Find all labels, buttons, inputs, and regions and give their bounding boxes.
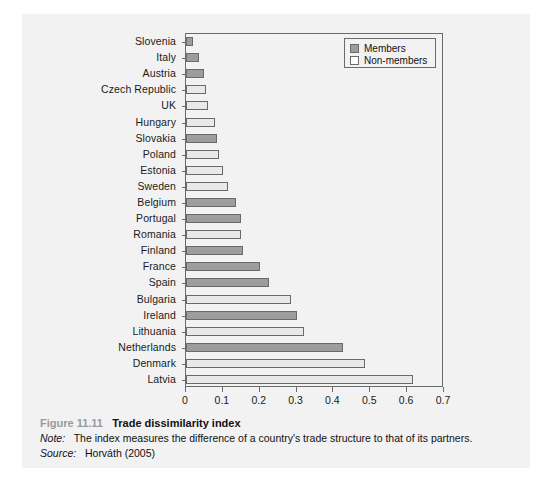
category-label-romania: Romania — [133, 228, 176, 240]
caption-note-text: The index measures the difference of a c… — [74, 432, 473, 444]
y-axis-tick — [182, 42, 186, 43]
category-label-lithuania: Lithuania — [132, 325, 176, 337]
category-label-austria: Austria — [143, 67, 176, 79]
legend-label-members: Members — [364, 43, 406, 54]
x-axis-tick-label: 0.2 — [251, 394, 266, 406]
table-row — [186, 246, 442, 255]
y-axis-tick — [182, 283, 186, 284]
caption-title-line: Figure 11.11 Trade dissimilarity index — [40, 416, 520, 431]
table-row — [186, 166, 442, 175]
bar-lithuania — [186, 327, 304, 336]
category-label-belgium: Belgium — [137, 196, 176, 208]
y-axis-tick — [182, 316, 186, 317]
figure-panel: SloveniaItalyAustriaCzech RepublicUKHung… — [22, 14, 530, 468]
y-axis-tick — [182, 380, 186, 381]
legend-item-members: Members — [350, 42, 430, 54]
bar-italy — [186, 53, 199, 62]
bar-belgium — [186, 198, 236, 207]
bar-france — [186, 262, 260, 271]
table-row — [186, 343, 442, 352]
caption-note-label: Note: — [40, 432, 65, 444]
category-label-latvia: Latvia — [147, 373, 176, 385]
category-label-finland: Finland — [141, 244, 176, 256]
y-axis-tick — [182, 235, 186, 236]
bar-czech-republic — [186, 85, 206, 94]
category-label-spain: Spain — [149, 276, 176, 288]
category-label-hungary: Hungary — [136, 116, 176, 128]
x-axis-tick — [332, 387, 333, 392]
table-row — [186, 198, 442, 207]
table-row — [186, 262, 442, 271]
x-axis-tick — [296, 387, 297, 392]
table-row — [186, 134, 442, 143]
caption-note: Note: The index measures the difference … — [40, 431, 520, 446]
y-axis-tick — [182, 74, 186, 75]
bar-bulgaria — [186, 295, 291, 304]
category-label-czech-republic: Czech Republic — [101, 83, 176, 95]
figure-number: Figure 11.11 — [40, 417, 103, 429]
y-axis-tick — [182, 203, 186, 204]
x-axis-tick — [185, 387, 186, 392]
table-row — [186, 311, 442, 320]
y-axis-tick — [182, 364, 186, 365]
chart-legend: Members Non-members — [344, 38, 436, 68]
table-row — [186, 101, 442, 110]
y-axis-tick — [182, 58, 186, 59]
y-axis-tick — [182, 219, 186, 220]
x-axis-tick-label: 0.6 — [399, 394, 414, 406]
category-label-ireland: Ireland — [143, 309, 176, 321]
bar-spain — [186, 278, 269, 287]
bar-hungary — [186, 118, 215, 127]
y-axis-tick — [182, 106, 186, 107]
x-axis-tick — [259, 387, 260, 392]
y-axis-tick — [182, 332, 186, 333]
bar-sweden — [186, 182, 228, 191]
x-axis-tick-label: 0.7 — [436, 394, 451, 406]
bar-portugal — [186, 214, 241, 223]
x-axis-tick-label: 0.4 — [325, 394, 340, 406]
category-label-denmark: Denmark — [133, 357, 176, 369]
caption-source-label: Source: — [40, 447, 76, 459]
chart-area: SloveniaItalyAustriaCzech RepublicUKHung… — [22, 14, 530, 410]
category-label-sweden: Sweden — [137, 180, 176, 192]
category-label-poland: Poland — [143, 148, 176, 160]
category-label-netherlands: Netherlands — [118, 341, 176, 353]
table-row — [186, 327, 442, 336]
category-label-france: France — [143, 260, 176, 272]
category-label-slovenia: Slovenia — [135, 35, 176, 47]
table-row — [186, 230, 442, 239]
caption-source: Source: Horváth (2005) — [40, 446, 520, 461]
category-label-estonia: Estonia — [140, 164, 176, 176]
x-axis: 00.10.20.30.40.50.60.7 — [185, 387, 444, 411]
y-axis-tick — [182, 187, 186, 188]
y-axis-tick — [182, 90, 186, 91]
bar-austria — [186, 69, 204, 78]
x-axis-tick — [369, 387, 370, 392]
table-row — [186, 295, 442, 304]
table-row — [186, 375, 442, 384]
category-label-bulgaria: Bulgaria — [137, 293, 176, 305]
bar-uk — [186, 101, 208, 110]
table-row — [186, 118, 442, 127]
bar-rows — [186, 34, 442, 386]
legend-swatch-nonmembers-icon — [350, 56, 359, 65]
x-axis-tick — [222, 387, 223, 392]
category-axis-labels: SloveniaItalyAustriaCzech RepublicUKHung… — [22, 33, 182, 387]
y-axis-tick — [182, 139, 186, 140]
caption-source-text: Horváth (2005) — [85, 447, 155, 459]
x-axis-tick — [406, 387, 407, 392]
category-label-uk: UK — [161, 99, 176, 111]
x-axis-tick — [443, 387, 444, 392]
x-axis-tick-label: 0.1 — [215, 394, 230, 406]
legend-label-nonmembers: Non-members — [364, 55, 427, 66]
bar-slovakia — [186, 134, 217, 143]
table-row — [186, 69, 442, 78]
y-axis-tick — [182, 267, 186, 268]
y-axis-tick — [182, 251, 186, 252]
x-axis-tick-label: 0 — [182, 394, 188, 406]
bar-ireland — [186, 311, 297, 320]
table-row — [186, 182, 442, 191]
category-label-slovakia: Slovakia — [136, 132, 177, 144]
y-axis-tick — [182, 348, 186, 349]
y-axis-tick — [182, 123, 186, 124]
